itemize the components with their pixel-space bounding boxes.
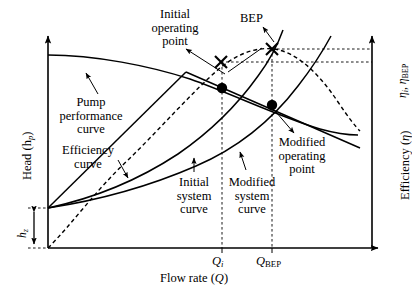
initial-efficiency-cross-marker	[215, 56, 227, 68]
x-tick-label-q-bep: QBEP	[256, 255, 281, 270]
callout-pump-line-1: Pump	[36, 96, 146, 110]
y-axis-right-title-symbol: η	[398, 135, 412, 141]
callout-initial-operating-point: Initial operating point	[126, 8, 224, 49]
eta-separator: ,	[396, 87, 408, 90]
eta-bep-symbol: η	[396, 79, 408, 85]
callout-bep-text: BEP	[240, 11, 263, 25]
q-i-base: Q	[212, 254, 221, 268]
callout-efficiency-curve: Efficiency curve	[38, 144, 138, 171]
callout-modified-sys-line-3: curve	[206, 203, 298, 217]
callout-efficiency-line-1: Efficiency	[38, 144, 138, 158]
y-axis-right-title-close: )	[398, 131, 412, 135]
callout-initial-op-line-2: operating	[126, 22, 224, 36]
y-axis-left-title-close: )	[20, 132, 34, 136]
leader-modified-system-curve	[240, 152, 246, 170]
pump-curve-figure: Head (hp) Efficiency (η) ηi, ηBEP hz Qi …	[0, 0, 412, 291]
leader-bep	[263, 27, 274, 42]
leader-initial-operating-point-b	[228, 48, 262, 72]
x-axis-title-symbol: Q	[215, 271, 224, 285]
y-axis-left-title-sub: p	[25, 136, 35, 140]
hz-label: hz	[16, 229, 30, 238]
callout-modified-sys-line-2: system	[206, 190, 298, 204]
efficiency-value-labels: ηi, ηBEP	[396, 64, 410, 98]
y-axis-left-title: Head (hp)	[20, 132, 35, 180]
eta-i-sub: i	[401, 90, 410, 92]
q-bep-base: Q	[256, 254, 265, 268]
callout-pump-line-3: curve	[36, 123, 146, 137]
callout-efficiency-line-2: curve	[38, 158, 138, 172]
eta-i-symbol: η	[396, 92, 408, 98]
callout-initial-op-line-3: point	[126, 35, 224, 49]
hz-sub: z	[21, 229, 30, 232]
y-axis-left-title-text: Head (h	[20, 140, 34, 180]
callout-modified-op-line-2: operating	[254, 150, 350, 164]
callout-modified-system-curve: Modified system curve	[206, 176, 298, 217]
modified-operating-point-marker	[267, 100, 277, 110]
x-axis-title-text: Flow rate (	[160, 271, 215, 285]
callout-modified-operating-point: Modified operating point	[254, 136, 350, 177]
q-i-sub: i	[221, 259, 223, 269]
x-tick-label-q-i: Qi	[212, 255, 223, 270]
y-axis-right-title-text: Efficiency (	[398, 141, 412, 200]
initial-operating-point-marker	[217, 83, 227, 93]
callout-modified-sys-line-1: Modified	[206, 176, 298, 190]
callout-bep: BEP	[240, 12, 263, 26]
y-axis-right-title: Efficiency (η)	[398, 131, 412, 201]
callout-modified-op-line-1: Modified	[254, 136, 350, 150]
eta-bep-sub: BEP	[401, 64, 410, 79]
callout-initial-op-line-1: Initial	[126, 8, 224, 22]
callout-pump-line-2: performance	[36, 110, 146, 124]
x-axis-title: Flow rate (Q)	[160, 272, 228, 286]
leader-pump-performance-curve	[86, 73, 98, 94]
marker-group	[215, 43, 278, 110]
x-axis-title-close: )	[224, 271, 228, 285]
callout-pump-performance-curve: Pump performance curve	[36, 96, 146, 137]
hz-base: h	[16, 232, 28, 238]
q-bep-sub: BEP	[265, 259, 281, 269]
